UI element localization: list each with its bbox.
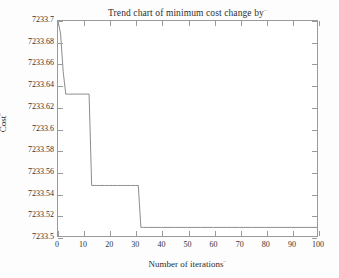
y-tick-label: 7233.54 (2, 190, 54, 198)
plot-inner (58, 21, 317, 236)
x-tick (189, 231, 190, 236)
y-tick-label: 7233.52 (2, 211, 54, 219)
x-tick (293, 231, 294, 236)
x-tick (162, 231, 163, 236)
x-tick-label: 100 (303, 240, 333, 249)
chart-title-trailing-mark: ⎯ (264, 7, 267, 13)
x-axis-title: Number of iterations⎯ (57, 256, 318, 270)
y-tick-right (312, 195, 317, 196)
y-tick (58, 173, 63, 174)
x-tick-top (58, 21, 59, 26)
y-tick-right (312, 108, 317, 109)
y-tick-right (312, 238, 317, 239)
y-tick (58, 130, 63, 131)
x-tick-top (215, 21, 216, 26)
y-tick-label: 7233.62 (2, 103, 54, 111)
y-tick-right (312, 64, 317, 65)
x-tick (58, 231, 59, 236)
y-axis-title-trailing-mark: ⎯ (0, 113, 3, 116)
x-axis-title-text: Number of iterations (149, 259, 224, 269)
y-tick-right (312, 21, 317, 22)
y-tick (58, 151, 63, 152)
y-tick (58, 43, 63, 44)
x-tick (136, 231, 137, 236)
series-line-minimum-cost (58, 21, 317, 236)
x-tick-top (189, 21, 190, 26)
chart-title-text: Trend chart of minimum cost change by (108, 8, 264, 18)
y-tick-right (312, 173, 317, 174)
y-tick-label: 7233.64 (2, 81, 54, 89)
x-tick-top (110, 21, 111, 26)
y-tick-right (312, 130, 317, 131)
y-tick-right (312, 151, 317, 152)
y-tick (58, 64, 63, 65)
y-tick-label: 7233.56 (2, 168, 54, 176)
y-tick-right (312, 216, 317, 217)
x-tick-top (84, 21, 85, 26)
x-tick (319, 231, 320, 236)
y-tick (58, 238, 63, 239)
x-tick (84, 231, 85, 236)
y-tick (58, 86, 63, 87)
x-tick-top (267, 21, 268, 26)
y-tick-label: 7233.58 (2, 146, 54, 154)
x-tick-top (319, 21, 320, 26)
plot-area (57, 20, 318, 237)
y-tick-right (312, 86, 317, 87)
x-tick (241, 231, 242, 236)
x-tick-top (241, 21, 242, 26)
y-tick-label: 7233.6 (2, 125, 54, 133)
y-tick-label: 7233.68 (2, 38, 54, 46)
y-tick-label: 7233.7 (2, 16, 54, 24)
y-tick (58, 108, 63, 109)
y-tick-right (312, 43, 317, 44)
x-axis-title-trailing-mark: ⎯ (223, 258, 226, 264)
x-tick (215, 231, 216, 236)
figure-canvas: Trend chart of minimum cost change by⎯ C… (0, 0, 339, 278)
x-tick-top (162, 21, 163, 26)
y-tick-label: 7233.66 (2, 59, 54, 67)
y-tick (58, 195, 63, 196)
x-tick-top (293, 21, 294, 26)
chart-title: Trend chart of minimum cost change by⎯ (57, 4, 318, 19)
x-tick (110, 231, 111, 236)
x-tick (267, 231, 268, 236)
x-tick-top (136, 21, 137, 26)
y-tick (58, 216, 63, 217)
